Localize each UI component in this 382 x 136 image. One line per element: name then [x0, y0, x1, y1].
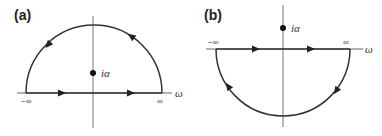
- panel-b: (b) iα −∞ ∞ ω: [204, 5, 373, 127]
- arrow-icon: [58, 90, 66, 97]
- arrow-icon: [43, 40, 54, 51]
- arrow-icon: [252, 46, 260, 53]
- omega-label: ω: [365, 43, 373, 55]
- arrow-icon: [307, 46, 315, 53]
- neg-infinity-label: −∞: [21, 97, 32, 106]
- pole-label: iα: [101, 67, 110, 79]
- panel-a-label: (a): [14, 7, 31, 23]
- panel-b-label: (b): [204, 7, 222, 23]
- arrow-icon: [126, 31, 137, 41]
- panel-a: (a) iα −∞ ∞ ω: [14, 7, 183, 128]
- contour-diagram: (a) iα −∞ ∞ ω (b): [0, 0, 382, 136]
- contour-arc: [26, 25, 162, 93]
- pole-point: [90, 70, 96, 76]
- pos-infinity-label: ∞: [157, 97, 163, 106]
- pole-point: [280, 25, 286, 31]
- pos-infinity-label: ∞: [343, 38, 349, 47]
- arrow-icon: [127, 90, 135, 97]
- omega-label: ω: [175, 87, 183, 99]
- pole-label: iα: [291, 22, 300, 34]
- neg-infinity-label: −∞: [208, 38, 219, 47]
